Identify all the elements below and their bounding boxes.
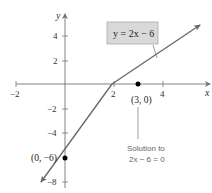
y-intercept-label: (0, −6): [31, 153, 57, 164]
equation-box-label: y = 2x − 6: [113, 28, 154, 39]
solution-annotation-line1: Solution to: [127, 144, 165, 153]
x-intercept-label: (3, 0): [131, 95, 152, 106]
x-tick-label-4: 4: [160, 89, 165, 99]
solution-annotation-line2: 2x − 6 = 0: [129, 155, 165, 164]
x-axis-label: x: [204, 87, 210, 98]
y-tick-label-2: 2: [53, 56, 58, 66]
y-tick-label-neg8: −8: [47, 177, 57, 187]
y-tick-label-neg2: −2: [47, 104, 57, 114]
y-intercept-point: [63, 156, 68, 161]
y-tick-label-neg4: −4: [47, 128, 57, 138]
x-tick-label-2: 2: [111, 89, 116, 99]
x-intercept-point: [136, 82, 141, 87]
x-tick-label-neg2: −2: [10, 89, 20, 99]
y-tick-label-4: 4: [53, 31, 58, 41]
chart-canvas: −2 2 4 x 4 2 −2 −4 −8 y y = 2x − 6 (3, 0…: [0, 0, 212, 193]
y-axis-label: y: [55, 10, 61, 21]
